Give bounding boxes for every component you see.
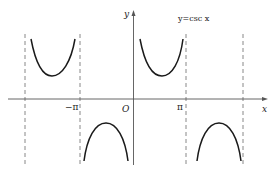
y-axis-arrow-icon (132, 10, 136, 16)
y-axis (132, 10, 136, 165)
origin-label: O (122, 104, 130, 114)
x-axis (8, 97, 268, 101)
x-axis-arrow-icon (262, 97, 268, 101)
x-axis-label: x (262, 104, 267, 114)
csc-graph: y=csc x y x O −π π (0, 0, 275, 183)
asymptotes (25, 34, 243, 165)
curve-branch-1 (31, 39, 75, 76)
curve-branch-3 (140, 39, 183, 76)
tick-label-neg-pi: −π (65, 102, 79, 112)
tick-label-pi: π (177, 102, 183, 112)
chart-title: y=csc x (177, 14, 210, 23)
curve-branch-2 (84, 123, 128, 161)
curve-branch-4 (197, 123, 241, 161)
csc-curves (31, 39, 241, 161)
y-axis-label: y (123, 9, 130, 19)
